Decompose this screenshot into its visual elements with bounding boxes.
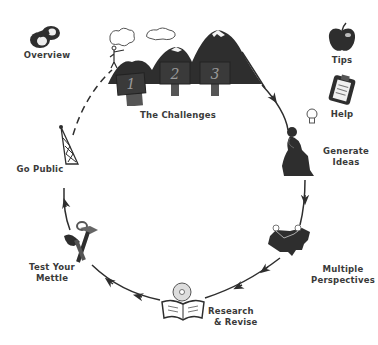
tools-icon: [60, 220, 104, 266]
svg-text:1: 1: [127, 76, 136, 92]
challenges-label: The Challenges: [138, 110, 218, 121]
mountains-icon: 1 2 3: [100, 22, 272, 106]
stage-multiple-perspectives[interactable]: Multiple Perspectives: [266, 222, 378, 294]
usa-map-icon: [266, 222, 312, 262]
stage-test-your-mettle[interactable]: Test Your Mettle: [22, 220, 108, 290]
stage-challenges[interactable]: 1 2 3 The Challenges: [100, 22, 272, 122]
svg-text:3: 3: [211, 66, 220, 82]
sign-1-icon: 1: [116, 73, 146, 106]
learning-cycle-diagram: Overview Tips Help: [0, 0, 378, 345]
thinker-icon: [280, 126, 316, 178]
lightbulb-icon: [305, 108, 319, 126]
svg-text:2: 2: [170, 66, 180, 82]
tips-label: Tips: [322, 55, 362, 66]
tips-button[interactable]: Tips: [322, 20, 362, 66]
stage-go-public[interactable]: Go Public: [16, 124, 82, 174]
multiple-perspectives-label: Multiple Perspectives: [308, 264, 378, 286]
stage-generate-ideas[interactable]: Generate Ideas: [280, 108, 378, 178]
clipboard-icon: [326, 72, 358, 106]
binoculars-icon: [29, 24, 63, 50]
overview-label: Overview: [22, 50, 72, 61]
overview-button[interactable]: Overview: [22, 20, 72, 64]
research-revise-label: Research & Revise: [208, 306, 264, 328]
sign-3-icon: 3: [200, 62, 230, 96]
generate-ideas-label: Generate Ideas: [316, 146, 376, 168]
open-book-icon: [160, 296, 206, 322]
go-public-label: Go Public: [16, 164, 64, 175]
test-your-mettle-label: Test Your Mettle: [22, 262, 82, 284]
sign-2-icon: 2: [160, 62, 190, 96]
apple-icon: [326, 22, 358, 54]
stage-research-revise[interactable]: Research & Revise: [160, 282, 280, 328]
